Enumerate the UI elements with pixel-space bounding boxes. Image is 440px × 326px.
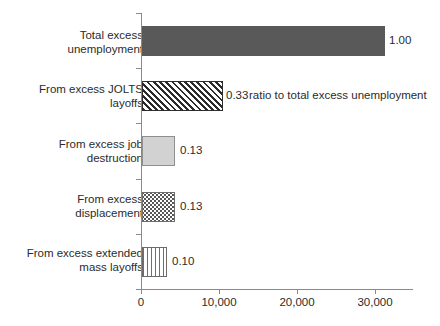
category-label-from-excess-job-destruction: From excess job destruction — [0, 138, 143, 165]
y-axis-tick-3 — [136, 179, 141, 180]
category-label-from-excess-jolts-layoffs: From excess JOLTS layoffs — [0, 83, 143, 110]
y-axis-tick-1 — [136, 68, 141, 69]
value-label-from-excess-job-destruction: 0.13 — [180, 144, 202, 156]
bar-from-excess-job-destruction — [142, 136, 175, 166]
x-axis-tick-30000 — [375, 289, 376, 294]
y-axis-tick-4 — [136, 234, 141, 235]
x-axis-label-0: 0 — [138, 296, 144, 308]
category-label-total-excess-unemployment: Total excess unemployment — [0, 29, 143, 56]
bar-chart: Total excess unemployment From excess JO… — [0, 0, 440, 326]
x-axis-line — [141, 289, 413, 290]
value-label-from-excess-jolts-layoffs: 0.33 — [226, 89, 248, 101]
x-axis-tick-10000 — [219, 289, 220, 294]
x-axis-tick-0 — [141, 289, 142, 294]
bar-from-excess-jolts-layoffs — [142, 81, 223, 111]
x-axis-label-20000: 20,000 — [279, 296, 314, 308]
value-label-from-excess-extended-mass-layoffs: 0.10 — [172, 255, 194, 267]
y-axis-tick-2 — [136, 123, 141, 124]
value-label-total-excess-unemployment: 1.00 — [389, 34, 411, 46]
y-axis-tick-0 — [136, 13, 141, 14]
bar-from-excess-extended-mass-layoffs — [142, 247, 167, 277]
x-axis-tick-20000 — [297, 289, 298, 294]
x-axis-label-10000: 10,000 — [201, 296, 236, 308]
category-label-from-excess-displacement: From excess displacement — [0, 193, 143, 220]
bar-from-excess-displacement — [142, 192, 175, 222]
annotation-ratio-to-total-excess-unemployment: ratio to total excess unemployment — [249, 89, 427, 101]
bar-total-excess-unemployment — [142, 26, 385, 56]
x-axis-label-30000: 30,000 — [357, 296, 392, 308]
category-label-from-excess-extended-mass-layoffs: From excess extended mass layoffs — [0, 247, 143, 274]
value-label-from-excess-displacement: 0.13 — [180, 200, 202, 212]
